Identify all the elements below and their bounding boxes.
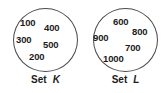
set-k-element-3: 300 bbox=[16, 35, 32, 45]
set-l-element-3: 900 bbox=[93, 33, 109, 43]
set-k-element-1: 100 bbox=[20, 18, 36, 28]
set-l-element-5: 1000 bbox=[103, 54, 124, 64]
set-k-label-letter: K bbox=[53, 74, 60, 85]
set-l-element-2: 800 bbox=[132, 27, 148, 37]
set-diagram: 100 400 300 500 200 SetK 600 800 900 700… bbox=[0, 0, 167, 93]
set-k-element-2: 400 bbox=[44, 23, 60, 33]
set-l-label-word: Set bbox=[112, 74, 128, 85]
set-group-k: 100 400 300 500 200 SetK bbox=[4, 0, 87, 93]
set-k-label-word: Set bbox=[31, 74, 47, 85]
set-l-element-1: 600 bbox=[113, 17, 129, 27]
set-k-label: SetK bbox=[4, 74, 87, 86]
set-l-label: SetL bbox=[84, 74, 167, 86]
set-group-l: 600 800 900 700 1000 SetL bbox=[84, 0, 167, 93]
set-l-label-letter: L bbox=[133, 74, 139, 85]
set-k-element-4: 500 bbox=[43, 40, 59, 50]
set-l-element-4: 700 bbox=[125, 43, 141, 53]
set-k-element-5: 200 bbox=[29, 52, 45, 62]
